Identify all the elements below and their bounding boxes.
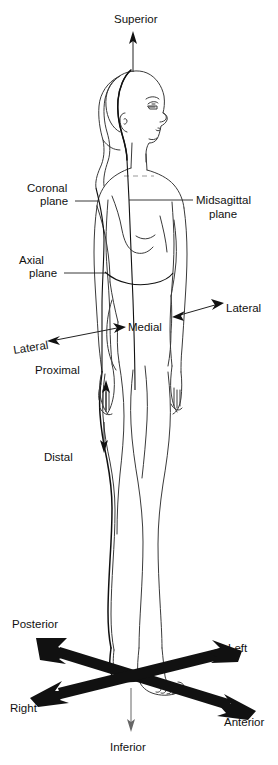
superior-label: Superior xyxy=(114,13,158,25)
inferior-annotation: Inferior xyxy=(110,688,146,753)
lateral-left-arrow-shaft xyxy=(56,328,117,340)
lateral-right-arrowhead-outward xyxy=(211,299,224,310)
anatomical-diagram: Superior Inferior Coronal plane Midsagit… xyxy=(0,0,278,765)
distal-annotation: Distal xyxy=(44,422,108,463)
distal-label: Distal xyxy=(44,451,73,463)
medial-label: Medial xyxy=(128,321,162,333)
superior-annotation: Superior xyxy=(114,13,158,72)
anatomy-figure-canvas: Superior Inferior Coronal plane Midsagit… xyxy=(0,0,278,765)
body-outline xyxy=(94,70,187,695)
midsagittal-plane-annotation: Midsagittal plane xyxy=(129,194,251,220)
lateral-right-arrow-shaft xyxy=(180,305,215,315)
axial-plane-label-line1: Axial xyxy=(19,254,44,266)
posterior-arrowhead xyxy=(36,638,70,664)
proximal-label: Proximal xyxy=(35,364,80,376)
lateral-left-label: Lateral xyxy=(12,339,49,356)
midsagittal-plane-label-line2: plane xyxy=(209,208,237,220)
lateral-right-arrowhead-inward xyxy=(172,311,185,321)
axial-plane-line xyxy=(105,272,173,285)
lateral-left-arrowhead-outward xyxy=(47,336,60,345)
right-label: Right xyxy=(10,702,38,714)
bold-direction-arrows: Posterior Left Right Anterior xyxy=(10,618,264,728)
left-label: Left xyxy=(228,642,248,654)
axial-plane-label-line2: plane xyxy=(29,267,57,279)
axial-plane-annotation: Axial plane xyxy=(19,254,106,279)
midsagittal-plane-label-line1: Midsagittal xyxy=(196,194,251,206)
medial-annotation: Medial xyxy=(128,321,162,333)
proximal-annotation: Proximal xyxy=(35,364,110,412)
coronal-plane-label-line2: plane xyxy=(40,195,68,207)
anterior-label: Anterior xyxy=(224,716,264,728)
coronal-plane-annotation: Coronal plane xyxy=(27,182,99,207)
posterior-label: Posterior xyxy=(12,618,58,630)
inferior-label: Inferior xyxy=(110,741,146,753)
coronal-plane-label-line1: Coronal xyxy=(27,182,67,194)
lateral-right-label: Lateral xyxy=(226,302,261,314)
